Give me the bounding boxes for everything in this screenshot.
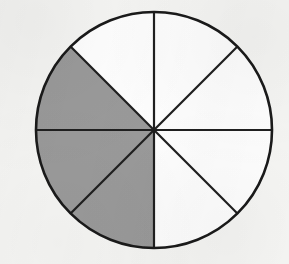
fraction-circle-diagram bbox=[0, 0, 289, 264]
figure-stage bbox=[0, 0, 289, 264]
